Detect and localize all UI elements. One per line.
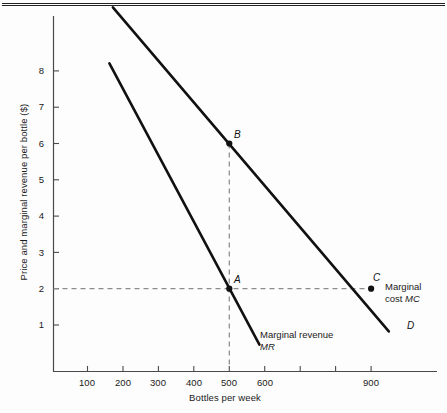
x-tick-label-200: 200 <box>106 377 140 388</box>
marginal-cost-annotation: Marginal cost MC <box>385 281 421 304</box>
x-axis-title: Bottles per week <box>150 392 300 403</box>
demand-curve <box>113 7 389 331</box>
marker-point-a <box>226 286 232 292</box>
marginal-revenue-curve <box>109 63 259 344</box>
marginal-cost-line-1: Marginal <box>385 281 421 293</box>
y-tick-label-4: 4 <box>28 210 44 221</box>
y-tick-label-5: 5 <box>28 174 44 185</box>
point-label-b: B <box>234 129 241 140</box>
y-axis-ticks <box>54 71 60 325</box>
marker-point-b <box>226 140 232 146</box>
marginal-revenue-line-2: MR <box>260 341 333 353</box>
x-tick-label-500: 500 <box>212 377 246 388</box>
point-label-c: C <box>373 272 380 283</box>
y-axis-title: Price and marginal revenue per bottle ($… <box>18 111 29 281</box>
y-tick-label-2: 2 <box>28 283 44 294</box>
y-tick-label-7: 7 <box>28 101 44 112</box>
x-tick-label-600: 600 <box>248 377 282 388</box>
marginal-cost-line-2: cost MC <box>385 293 421 305</box>
marginal-cost-abbrev: MC <box>405 293 420 304</box>
marker-point-c <box>368 286 374 292</box>
economics-chart-figure: Price and marginal revenue per bottle ($… <box>0 0 447 413</box>
marginal-revenue-line-1: Marginal revenue <box>260 329 333 341</box>
plot-area <box>0 0 447 413</box>
x-tick-label-900: 900 <box>354 377 388 388</box>
x-tick-label-300: 300 <box>141 377 175 388</box>
point-label-d: D <box>407 320 414 331</box>
x-tick-label-100: 100 <box>70 377 104 388</box>
marginal-cost-line-2-text: cost <box>385 293 405 304</box>
point-label-a: A <box>234 274 241 285</box>
marginal-revenue-abbrev: MR <box>260 341 275 352</box>
x-axis-ticks <box>88 366 372 372</box>
y-tick-label-8: 8 <box>28 65 44 76</box>
y-tick-label-6: 6 <box>28 138 44 149</box>
y-tick-label-1: 1 <box>28 319 44 330</box>
marginal-revenue-annotation: Marginal revenue MR <box>260 329 333 352</box>
y-tick-label-3: 3 <box>28 247 44 258</box>
x-tick-label-400: 400 <box>177 377 211 388</box>
